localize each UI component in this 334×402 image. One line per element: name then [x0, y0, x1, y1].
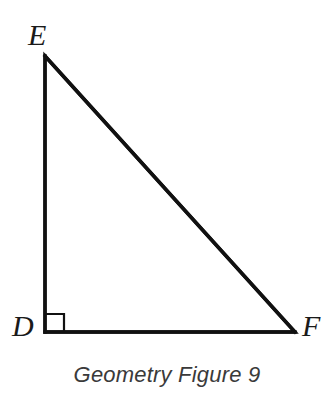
vertex-label-e: E: [28, 20, 46, 50]
vertex-label-d: D: [12, 311, 34, 341]
vertex-label-f: F: [302, 311, 320, 341]
figure-caption: Geometry Figure 9: [0, 362, 334, 388]
geometry-figure: E D F Geometry Figure 9: [0, 0, 334, 402]
right-angle-marker-icon: [46, 314, 64, 332]
triangle-diagram: [0, 0, 334, 402]
side-ef-hypotenuse: [45, 56, 295, 332]
